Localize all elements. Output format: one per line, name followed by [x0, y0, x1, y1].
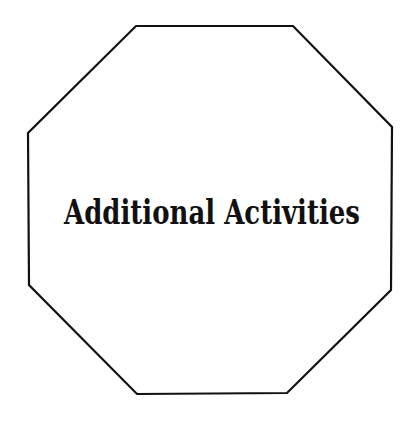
- diagram-canvas: Additional Activities: [0, 0, 414, 425]
- diagram-svg: Additional Activities: [0, 0, 414, 425]
- octagon-title: Additional Activities: [63, 192, 360, 232]
